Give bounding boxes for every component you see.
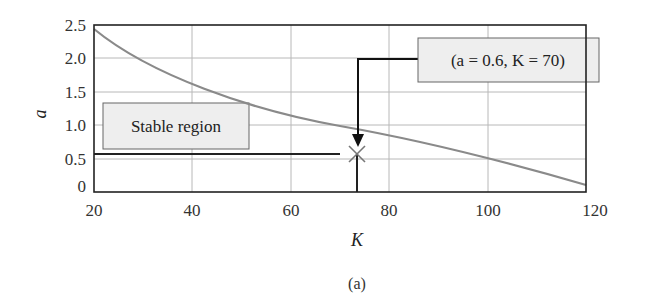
svg-text:100: 100 — [475, 201, 501, 220]
x-axis-label: K — [350, 230, 364, 250]
figure-caption: (a) — [348, 275, 366, 293]
svg-text:20: 20 — [86, 201, 103, 220]
x-tick-labels: 20 40 60 80 100 120 — [86, 201, 608, 220]
svg-text:120: 120 — [582, 201, 608, 220]
svg-text:2.5: 2.5 — [65, 16, 86, 35]
y-tick-labels: 2.5 2.0 1.5 1.0 0.5 0 — [65, 16, 86, 196]
svg-text:40: 40 — [184, 201, 201, 220]
svg-text:80: 80 — [381, 201, 398, 220]
svg-text:1.5: 1.5 — [65, 83, 86, 102]
chart: Stable region (a = 0.6, K = 70) 2.5 2.0 … — [0, 0, 671, 305]
y-axis-label: a — [30, 110, 50, 119]
stable-region-label: Stable region — [103, 103, 249, 149]
stable-region-text: Stable region — [131, 117, 222, 136]
svg-text:60: 60 — [283, 201, 300, 220]
point-callout-text: (a = 0.6, K = 70) — [451, 51, 565, 70]
svg-text:1.0: 1.0 — [65, 116, 86, 135]
svg-text:0: 0 — [78, 177, 87, 196]
svg-text:2.0: 2.0 — [65, 49, 86, 68]
svg-text:0.5: 0.5 — [65, 150, 86, 169]
point-callout: (a = 0.6, K = 70) — [418, 38, 599, 82]
